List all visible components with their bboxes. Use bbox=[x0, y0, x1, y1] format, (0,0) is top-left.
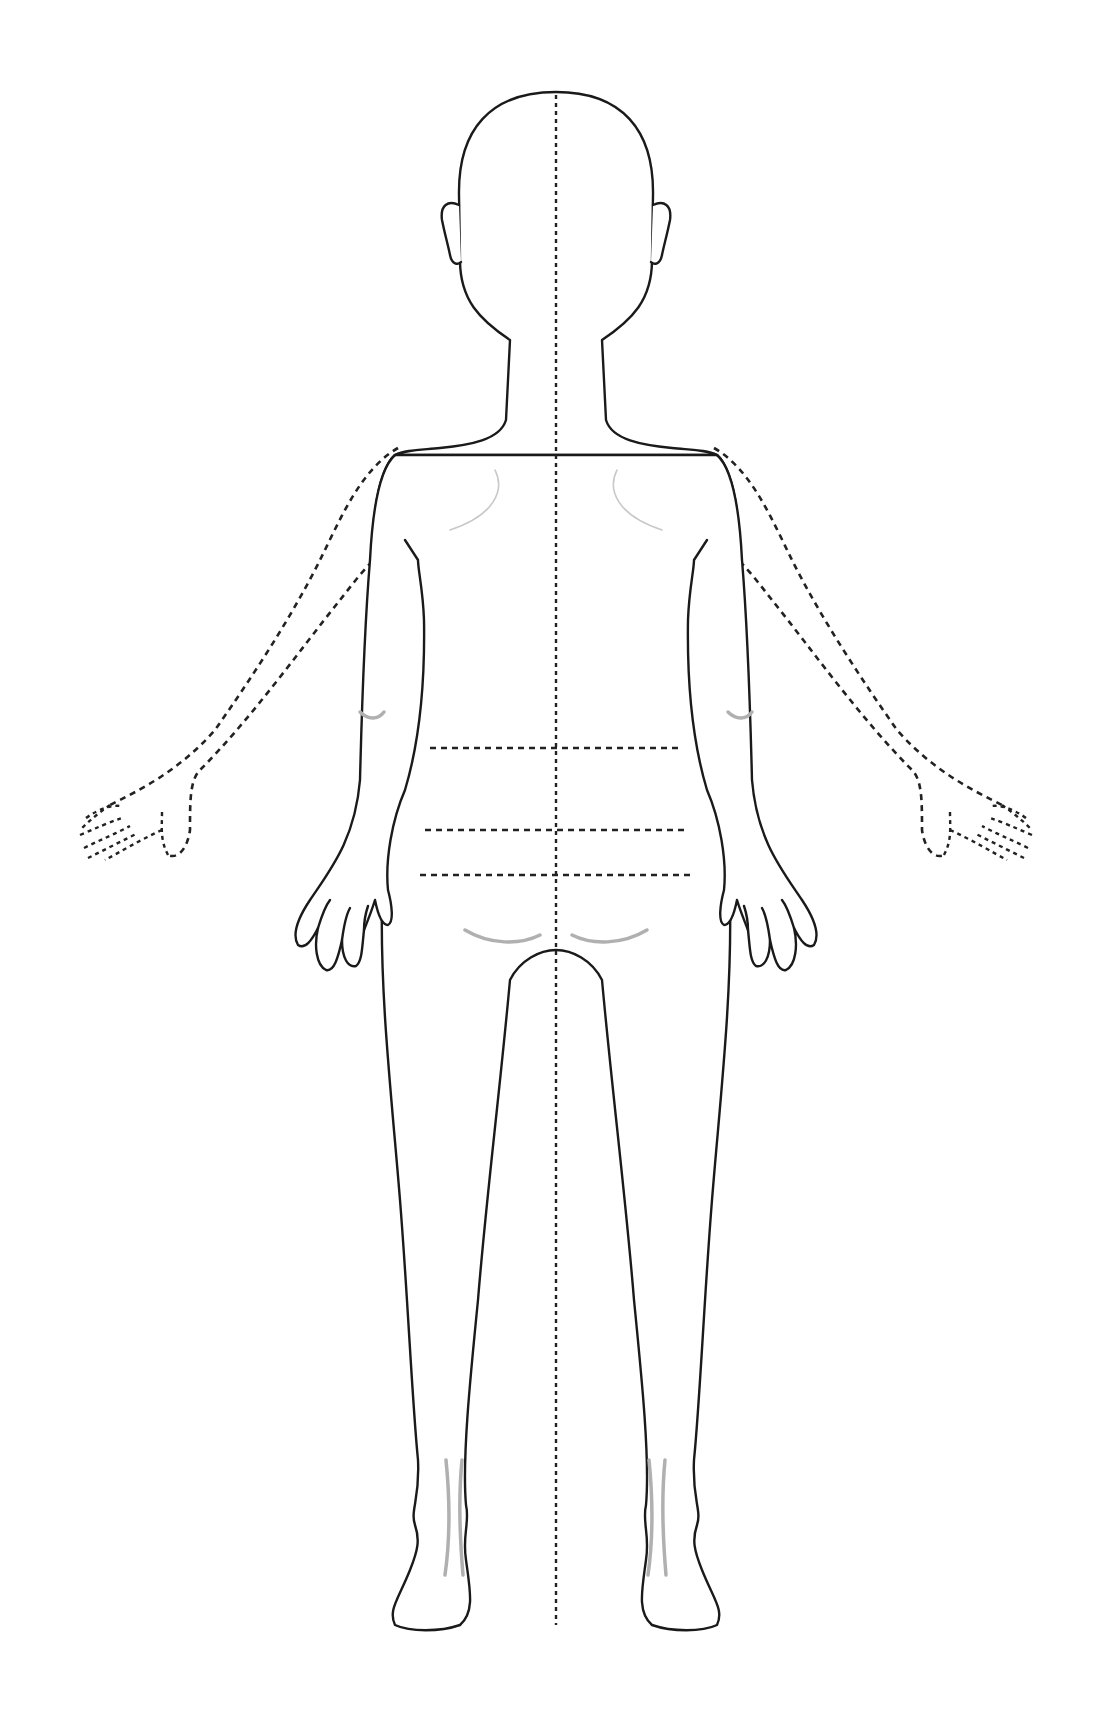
left-ear bbox=[442, 203, 461, 264]
right-ear bbox=[651, 203, 670, 264]
body-diagram bbox=[0, 0, 1101, 1722]
